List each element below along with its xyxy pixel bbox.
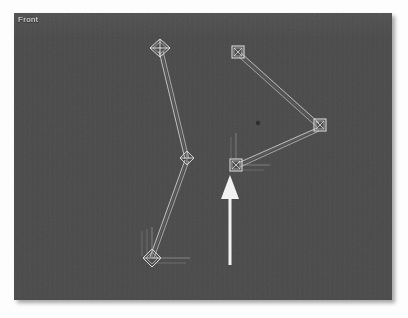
left-knee-joint[interactable]: [180, 151, 194, 165]
viewport-front[interactable]: Front: [14, 13, 392, 300]
right-shoulder-joint[interactable]: [232, 46, 244, 58]
left-shin-bone[interactable]: [150, 160, 189, 258]
right-elbow-joint[interactable]: [314, 119, 326, 131]
page-background: Front: [0, 0, 408, 318]
right-arm-chain[interactable]: [230, 46, 326, 171]
left-thigh-bone[interactable]: [159, 51, 189, 159]
viewport-label: Front: [18, 15, 38, 25]
right-upper-arm-bone[interactable]: [239, 53, 319, 127]
scene-pivot-dot: [256, 121, 260, 125]
scene-geometry-layer: [14, 13, 392, 300]
right-forearm-bone[interactable]: [238, 128, 319, 167]
left-leg-chain[interactable]: [142, 39, 194, 267]
left-hip-joint[interactable]: [150, 39, 170, 57]
right-wrist-joint[interactable]: [230, 159, 242, 171]
